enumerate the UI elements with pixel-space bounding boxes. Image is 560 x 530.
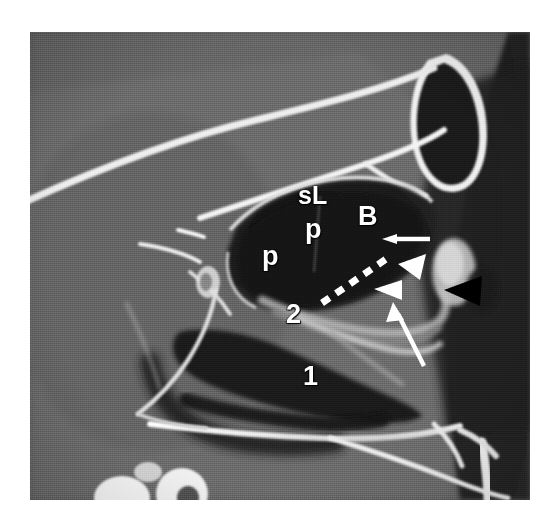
label-2: 2 <box>286 301 301 328</box>
label-sl: sL <box>298 183 327 208</box>
label-1: 1 <box>303 363 318 390</box>
figure-root: sL p p B 2 1 <box>0 0 560 530</box>
ct-anatomy-layer <box>30 32 530 500</box>
label-p-upper: p <box>305 216 322 243</box>
label-b: B <box>358 203 378 230</box>
label-p-lower: p <box>262 243 279 270</box>
ct-scan-image: sL p p B 2 1 <box>30 32 530 500</box>
